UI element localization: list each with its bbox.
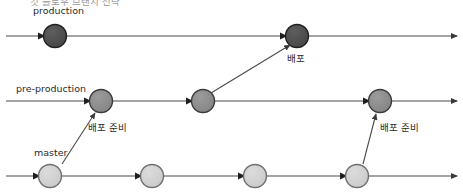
production-node-2[interactable] [286, 25, 309, 48]
lane-label-production: production [33, 5, 84, 16]
pre-production-node-3[interactable] [369, 90, 392, 113]
node-label-pre-production-prep-right: 배포 준비 [380, 122, 419, 133]
master-node-3[interactable] [244, 165, 267, 188]
gitflow-branch-diagram: 깃 플로우 브랜치 전략 production 배포 pre-productio… [0, 0, 463, 196]
node-label-production-deploy: 배포 [287, 53, 305, 64]
node-label-pre-production-prep-left: 배포 준비 [88, 122, 127, 133]
merge-arrow-master-to-pre-production-right [363, 114, 376, 164]
master-node-1[interactable] [39, 165, 62, 188]
merge-arrow-pre-production-to-production [211, 45, 290, 93]
master-node-4[interactable] [346, 165, 369, 188]
lane-production: production 배포 [6, 5, 457, 64]
production-node-1[interactable] [44, 25, 67, 48]
lane-label-master: master [34, 147, 68, 158]
master-node-2[interactable] [141, 165, 164, 188]
pre-production-node-1[interactable] [90, 90, 113, 113]
lane-label-pre-production: pre-production [16, 83, 86, 94]
merge-arrow-master-to-pre-production-left [62, 113, 95, 164]
lane-master: master [6, 147, 457, 188]
lane-pre-production: pre-production 배포 준비 배포 준비 [6, 83, 457, 133]
